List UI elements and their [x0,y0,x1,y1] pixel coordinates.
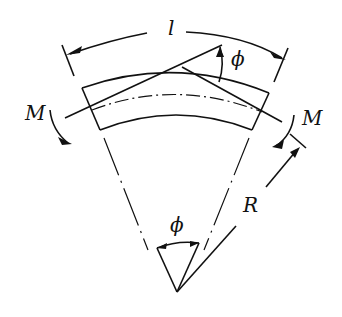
label-moment-right: M [302,108,322,128]
diagram-graphic [0,0,342,317]
center-angle-arrow-left [157,243,167,249]
dim-arrow-left [66,46,82,55]
beam-bottom-edge [100,115,252,130]
radius-R-ext [290,134,306,148]
label-moment-left: M [25,103,45,123]
radius-R-line [177,226,236,292]
radius-left [104,138,148,250]
beam-top-edge [82,73,269,93]
tangent-right [182,67,282,122]
tangent-left [65,45,222,118]
dim-ext-left [62,45,74,76]
beam-bending-diagram: l ϕ M M R ϕ [0,0,342,317]
label-center-angle: ϕ [170,215,184,235]
dim-ext-right [274,48,288,82]
angle-side-right [177,243,199,292]
moment-right-arrowhead [272,140,284,149]
label-slope-angle: ϕ [231,49,245,69]
dim-arc-left [70,33,147,54]
label-radius: R [243,195,258,215]
radius-R-line-upper [266,151,296,187]
phi-top-arrowhead [216,47,224,57]
angle-side-left [157,248,177,292]
label-arc-length: l [168,18,174,38]
moment-left-arrowhead [58,137,72,145]
